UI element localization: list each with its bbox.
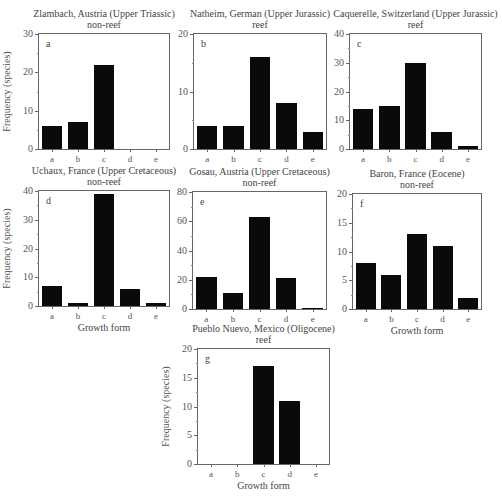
y-axis-label: Frequency (species) (160, 351, 171, 461)
y-tick-label: 20 (325, 189, 347, 199)
y-minor-tick (191, 294, 193, 295)
y-tick (346, 149, 350, 150)
x-tick (233, 309, 234, 312)
bar-a (356, 263, 376, 309)
y-tick (194, 349, 198, 350)
panel-label: d (46, 195, 51, 206)
plot-area: a (38, 33, 170, 150)
y-tick-label: 0 (165, 304, 187, 314)
plot-area: c (349, 33, 482, 150)
bar-a (196, 277, 217, 309)
y-tick-label: 0 (325, 304, 347, 314)
y-tick-label: 5 (325, 275, 347, 285)
bar-d (276, 278, 297, 309)
y-tick (189, 251, 193, 252)
x-tick (286, 309, 287, 312)
y-tick-label: 10 (166, 87, 188, 97)
x-tick-label: c (91, 154, 117, 164)
x-tick-label: c (402, 154, 428, 164)
x-tick (443, 309, 444, 312)
bar-c (94, 65, 114, 149)
chart-title: Pueblo Nuevo, Mexico (Oligocene)reef (167, 323, 360, 345)
x-tick (416, 149, 417, 152)
y-minor-tick (191, 236, 193, 237)
y-axis-label: Frequency (species) (1, 36, 12, 146)
x-tick (237, 464, 238, 467)
x-tick-label: b (379, 314, 405, 324)
y-tick (346, 120, 350, 121)
y-tick (35, 220, 39, 221)
x-tick (130, 306, 131, 309)
x-tick (156, 149, 157, 152)
x-tick-label: c (91, 311, 117, 321)
y-minor-tick (351, 237, 353, 238)
x-tick-label: c (250, 469, 276, 479)
x-tick-label: d (117, 154, 143, 164)
chart-title-text: Baron, France (Eocene) (322, 168, 502, 179)
bar-c (94, 194, 114, 306)
x-tick (389, 149, 390, 152)
x-tick (260, 149, 261, 152)
x-tick (313, 149, 314, 152)
y-tick-label: 80 (165, 187, 187, 197)
bar-a (197, 126, 218, 149)
y-tick-label: 10 (325, 247, 347, 257)
x-tick (130, 149, 131, 152)
chart-title: Baron, France (Eocene)non-reef (322, 168, 502, 190)
y-minor-tick (192, 120, 194, 121)
x-tick (206, 309, 207, 312)
x-tick (313, 309, 314, 312)
x-tick-label: d (277, 469, 303, 479)
y-minor-tick (348, 135, 350, 136)
x-tick (78, 306, 79, 309)
x-tick-label: e (455, 154, 481, 164)
y-tick (349, 280, 353, 281)
y-minor-tick (37, 92, 39, 93)
x-tick-label: d (117, 311, 143, 321)
x-tick (468, 149, 469, 152)
x-tick (286, 149, 287, 152)
x-tick (290, 464, 291, 467)
x-tick-label: c (247, 154, 273, 164)
y-tick-label: 20 (11, 67, 33, 77)
y-tick (35, 111, 39, 112)
y-tick-label: 0 (322, 144, 344, 154)
y-tick-label: 15 (170, 373, 192, 383)
x-tick (207, 149, 208, 152)
y-tick (346, 63, 350, 64)
y-minor-tick (196, 450, 198, 451)
y-minor-tick (37, 130, 39, 131)
y-minor-tick (191, 265, 193, 266)
chart-title-text: Caquerelle, Switzerland (Upper Jurassic) (319, 8, 502, 19)
chart-subtitle: reef (167, 334, 360, 345)
y-minor-tick (196, 363, 198, 364)
x-tick (234, 149, 235, 152)
x-tick (104, 149, 105, 152)
y-tick (190, 149, 194, 150)
x-tick-label: b (220, 154, 246, 164)
x-tick (260, 309, 261, 312)
x-tick (52, 149, 53, 152)
x-tick (363, 149, 364, 152)
y-tick (35, 34, 39, 35)
bar-d (279, 401, 299, 464)
y-tick-label: 5 (170, 430, 192, 440)
panel-label: e (200, 196, 204, 207)
x-tick-label: a (350, 154, 376, 164)
panel-label: g (205, 353, 210, 364)
plot-area: e (192, 191, 327, 310)
x-tick-label: d (429, 154, 455, 164)
panel-label: f (360, 198, 363, 209)
y-minor-tick (348, 48, 350, 49)
y-minor-tick (37, 53, 39, 54)
x-tick (468, 309, 469, 312)
bar-b (223, 126, 244, 149)
y-tick (189, 192, 193, 193)
y-minor-tick (37, 205, 39, 206)
y-tick (349, 309, 353, 310)
plot-area: d (38, 190, 170, 307)
y-minor-tick (37, 292, 39, 293)
y-minor-tick (351, 266, 353, 267)
y-tick-label: 10 (322, 115, 344, 125)
bar-c (249, 217, 270, 309)
